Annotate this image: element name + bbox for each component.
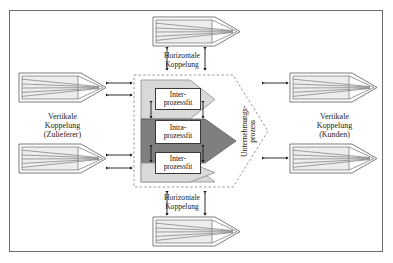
customer-process-top bbox=[290, 73, 377, 102]
left-coupling-connectors bbox=[108, 83, 132, 168]
label-horizontal-coupling-top: Horizontale Koppelung bbox=[150, 52, 214, 69]
supplier-process-bottom bbox=[19, 144, 106, 173]
fit-box-intra-middle: Intra- prozessfit bbox=[155, 120, 201, 144]
label-enterprise-process: Unternehmungs- prozess bbox=[241, 89, 258, 173]
customer-process-bottom bbox=[290, 144, 377, 173]
supplier-process-top bbox=[19, 73, 106, 102]
fit-box-inter-top: Inter- prozessfit bbox=[155, 88, 201, 110]
partner-process-bottom bbox=[153, 217, 240, 246]
right-coupling-connectors bbox=[264, 83, 288, 158]
fit-box-inter-bottom: Inter- prozessfit bbox=[155, 152, 201, 174]
label-horizontal-coupling-bottom: Horizontale Koppelung bbox=[150, 194, 214, 211]
diagram-figure: Inter- prozessfit Intra- prozessfit Inte… bbox=[0, 0, 393, 263]
partner-process-top bbox=[153, 17, 240, 46]
label-vertical-coupling-supplier: Vertikale Koppelung (Zulieferer) bbox=[20, 113, 105, 140]
label-vertical-coupling-customer: Vertikale Koppelung (Kunden) bbox=[292, 113, 377, 140]
